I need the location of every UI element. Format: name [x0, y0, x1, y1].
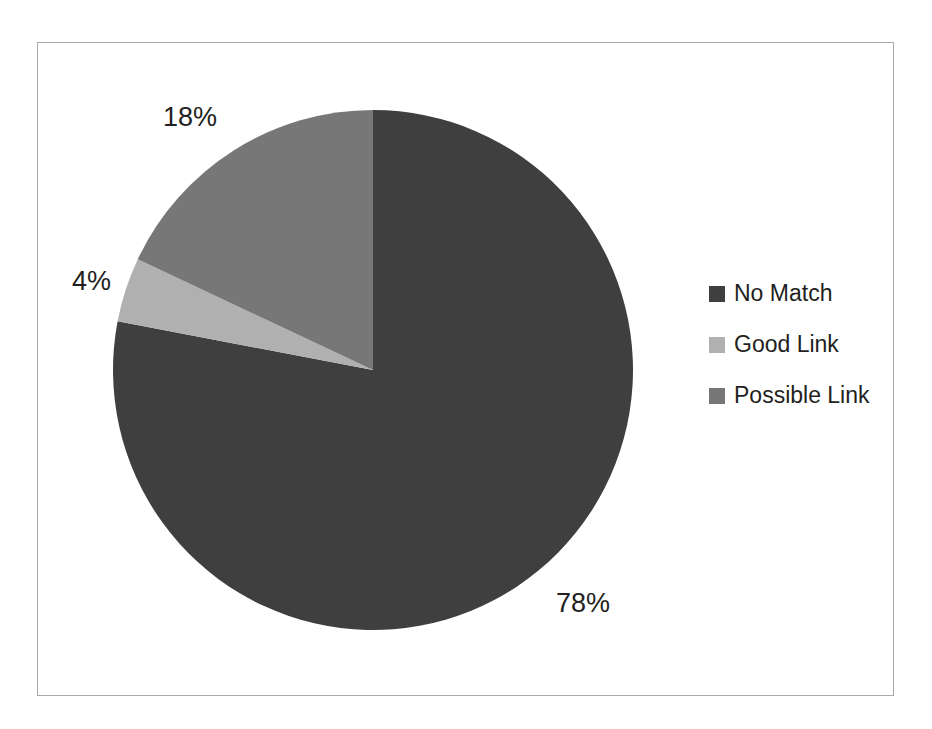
- slice-value-label-possible-link: 18%: [163, 102, 217, 133]
- legend-item-possible-link[interactable]: Possible Link: [709, 370, 870, 421]
- legend-item-no-match[interactable]: No Match: [709, 268, 870, 319]
- legend-swatch-icon-no-match: [709, 286, 725, 302]
- legend-swatch-icon-good-link: [709, 337, 725, 353]
- legend-swatch-icon-possible-link: [709, 388, 725, 404]
- legend-label-possible-link: Possible Link: [734, 384, 870, 407]
- legend-label-good-link: Good Link: [734, 333, 839, 356]
- legend-item-good-link[interactable]: Good Link: [709, 319, 870, 370]
- legend-label-no-match: No Match: [734, 282, 832, 305]
- slice-value-label-no-match: 78%: [556, 588, 610, 619]
- slice-value-label-good-link: 4%: [72, 266, 111, 297]
- chart-legend: No Match Good Link Possible Link: [709, 268, 870, 421]
